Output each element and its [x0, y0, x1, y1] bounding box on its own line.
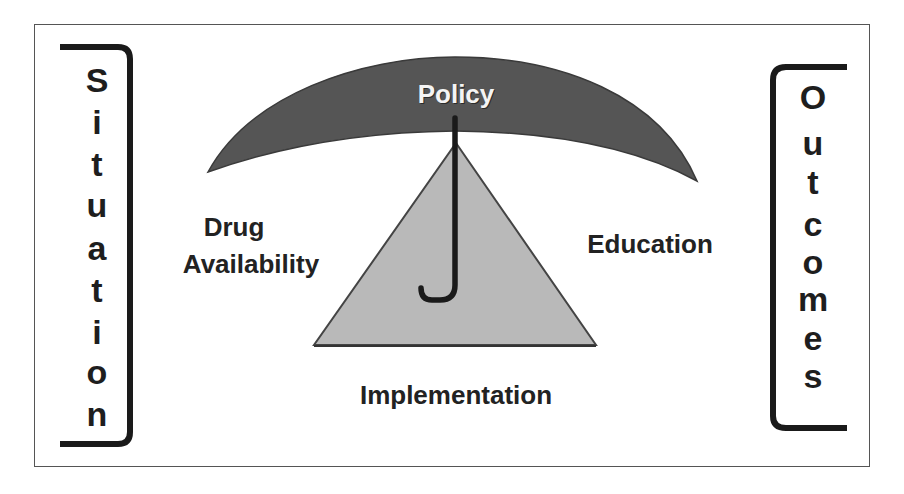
situation-letter: u	[87, 186, 108, 224]
outcomes-letter: s	[804, 357, 823, 395]
situation-letter: S	[86, 61, 109, 99]
situation-letter: i	[92, 313, 101, 351]
outcomes-letter: u	[803, 124, 824, 162]
drug-availability-label-line2: Availability	[183, 249, 320, 279]
situation-letter: n	[87, 395, 108, 433]
outcomes-vertical-text: O u t c o m e s	[798, 78, 828, 395]
situation-letter: o	[87, 353, 108, 391]
outcomes-letter: c	[804, 205, 823, 243]
education-label: Education	[587, 229, 713, 259]
outcomes-letter: m	[798, 280, 828, 318]
situation-letter: t	[91, 271, 102, 309]
outcomes-letter: t	[807, 163, 818, 201]
drug-availability-label-line1: Drug	[204, 212, 265, 242]
implementation-label: Implementation	[360, 380, 552, 410]
policy-label: Policy	[418, 79, 495, 109]
situation-letter: t	[91, 145, 102, 183]
policy-umbrella-diagram: S i t u a t i o n O u t c o m e s Policy…	[0, 0, 904, 494]
outcomes-letter: O	[800, 78, 826, 116]
outcomes-letter: o	[803, 243, 824, 281]
situation-vertical-text: S i t u a t i o n	[86, 61, 109, 433]
situation-letter: a	[88, 229, 108, 267]
situation-letter: i	[92, 103, 101, 141]
outcomes-letter: e	[804, 319, 823, 357]
